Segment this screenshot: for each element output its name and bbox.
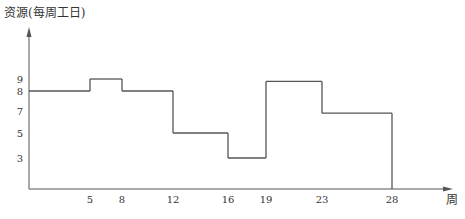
x-tick-label: 5 xyxy=(87,194,93,205)
x-tick-label: 23 xyxy=(316,194,329,205)
y-tick-label: 7 xyxy=(17,106,23,117)
x-axis-label: 周 xyxy=(446,193,458,207)
x-tick-label: 16 xyxy=(222,194,235,205)
y-axis-arrow xyxy=(27,27,32,37)
x-tick-label: 19 xyxy=(260,194,273,205)
y-tick-label: 5 xyxy=(17,128,23,139)
x-axis-arrow xyxy=(443,187,453,192)
y-axis-label: 资源(每周工日) xyxy=(4,5,85,20)
y-tick-label: 8 xyxy=(17,86,23,97)
x-tick-label: 28 xyxy=(386,194,399,205)
x-tick-label: 12 xyxy=(167,194,180,205)
y-tick-label: 9 xyxy=(17,74,23,85)
x-tick-label: 8 xyxy=(119,194,125,205)
resource-histogram-chart: 资源(每周工日) 周 35789 581216192328 xyxy=(0,0,465,219)
y-tick-label: 3 xyxy=(17,153,23,164)
